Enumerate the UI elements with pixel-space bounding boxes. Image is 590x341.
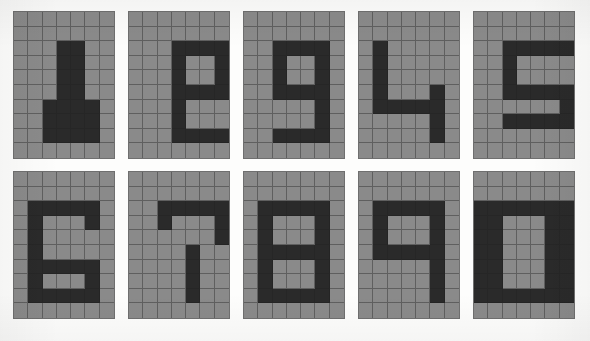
grid-cell-filled	[503, 70, 517, 85]
grid-cell-empty	[287, 172, 301, 187]
grid-cell-empty	[100, 143, 114, 158]
grid-cell-empty	[186, 216, 200, 231]
grid-cell-empty	[503, 143, 517, 158]
grid-cell-empty	[14, 216, 28, 231]
grid-cell-empty	[28, 100, 42, 115]
grid-cell-filled	[503, 85, 517, 100]
grid-cell-filled	[273, 201, 287, 216]
grid-cell-empty	[71, 216, 85, 231]
digit-panel-5	[473, 11, 575, 159]
grid-cell-empty	[143, 70, 157, 85]
grid-cell-empty	[258, 27, 272, 42]
grid-cell-empty	[402, 12, 416, 27]
grid-cell-empty	[28, 56, 42, 71]
grid-cell-filled	[301, 245, 315, 260]
grid-cell-empty	[85, 70, 99, 85]
grid-cell-empty	[373, 289, 387, 304]
grid-cell-filled	[215, 201, 229, 216]
grid-cell-empty	[359, 85, 373, 100]
grid-cell-empty	[388, 172, 402, 187]
grid-cell-empty	[301, 143, 315, 158]
grid-cell-empty	[388, 216, 402, 231]
grid-cell-empty	[330, 216, 344, 231]
grid-cell-empty	[445, 245, 459, 260]
grid-cell-empty	[273, 260, 287, 275]
grid-cell-empty	[158, 70, 172, 85]
grid-cell-empty	[57, 12, 71, 27]
grid-cell-filled	[430, 245, 444, 260]
grid-cell-filled	[373, 41, 387, 56]
grid-cell-empty	[85, 187, 99, 202]
digit-panel-8	[243, 171, 345, 319]
grid-cell-empty	[373, 172, 387, 187]
grid-cell-empty	[388, 230, 402, 245]
grid-cell-empty	[14, 85, 28, 100]
grid-cell-filled	[373, 85, 387, 100]
grid-cell-empty	[330, 303, 344, 318]
grid-cell-empty	[416, 114, 430, 129]
grid-cell-empty	[315, 143, 329, 158]
grid-cell-filled	[545, 41, 559, 56]
grid-cell-empty	[359, 56, 373, 71]
grid-cell-empty	[28, 172, 42, 187]
grid-cell-empty	[359, 230, 373, 245]
grid-cell-empty	[416, 12, 430, 27]
grid-cell-empty	[100, 230, 114, 245]
grid-cell-empty	[43, 41, 57, 56]
grid-cell-empty	[215, 27, 229, 42]
grid-cell-filled	[172, 85, 186, 100]
grid-cell-empty	[71, 245, 85, 260]
grid-cell-empty	[100, 70, 114, 85]
grid-cell-filled	[71, 289, 85, 304]
grid-cell-empty	[200, 303, 214, 318]
grid-cell-empty	[43, 56, 57, 71]
grid-cell-empty	[445, 303, 459, 318]
grid-cell-empty	[273, 274, 287, 289]
grid-cell-empty	[416, 85, 430, 100]
grid-cell-empty	[43, 303, 57, 318]
grid-cell-filled	[57, 260, 71, 275]
grid-cell-empty	[330, 245, 344, 260]
grid-cell-filled	[28, 201, 42, 216]
grid-cell-filled	[315, 129, 329, 144]
grid-cell-empty	[545, 143, 559, 158]
grid-cell-empty	[258, 12, 272, 27]
grid-cell-empty	[273, 27, 287, 42]
grid-cell-filled	[315, 201, 329, 216]
grid-cell-filled	[273, 129, 287, 144]
grid-cell-empty	[244, 12, 258, 27]
grid-cell-filled	[273, 56, 287, 71]
grid-cell-empty	[186, 27, 200, 42]
grid-cell-filled	[71, 129, 85, 144]
grid-cell-empty	[388, 129, 402, 144]
grid-cell-filled	[215, 41, 229, 56]
grid-cell-empty	[28, 27, 42, 42]
grid-cell-empty	[143, 172, 157, 187]
grid-cell-empty	[200, 12, 214, 27]
grid-cell-empty	[143, 230, 157, 245]
grid-cell-filled	[28, 230, 42, 245]
grid-cell-filled	[474, 216, 488, 231]
grid-cell-filled	[172, 70, 186, 85]
grid-cell-filled	[43, 260, 57, 275]
grid-cell-empty	[186, 172, 200, 187]
grid-cell-empty	[445, 114, 459, 129]
grid-cell-filled	[560, 85, 574, 100]
grid-cell-empty	[14, 274, 28, 289]
grid-cell-empty	[14, 230, 28, 245]
grid-cell-empty	[330, 172, 344, 187]
grid-cell-empty	[287, 12, 301, 27]
grid-cell-filled	[301, 129, 315, 144]
grid-cell-empty	[129, 56, 143, 71]
grid-cell-empty	[143, 85, 157, 100]
grid-cell-empty	[85, 27, 99, 42]
grid-cell-empty	[129, 70, 143, 85]
grid-cell-empty	[517, 274, 531, 289]
grid-cell-empty	[373, 187, 387, 202]
grid-cell-empty	[244, 289, 258, 304]
grid-cell-empty	[273, 303, 287, 318]
grid-cell-filled	[488, 201, 502, 216]
grid-cell-filled	[172, 114, 186, 129]
grid-cell-filled	[43, 129, 57, 144]
grid-cell-filled	[57, 85, 71, 100]
